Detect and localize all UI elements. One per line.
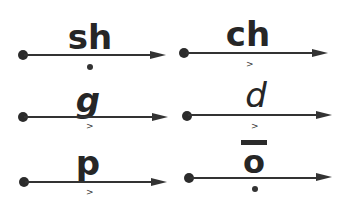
line [188, 114, 320, 116]
cell-ch: ch > [170, 0, 340, 66]
mark-dot-icon [252, 186, 258, 192]
letter-g: g [60, 83, 116, 117]
start-dot-icon [182, 111, 192, 121]
cell-o-macron: o [170, 140, 340, 206]
arrowhead-icon [151, 178, 167, 186]
cell-g: g > [0, 75, 170, 141]
arrowhead-icon [152, 113, 168, 121]
letter-sh: sh [58, 20, 122, 54]
caret-mark-icon: > [251, 122, 259, 131]
caret-mark-icon: > [246, 60, 254, 69]
cell-sh: sh [0, 0, 170, 66]
letter-o: o [226, 146, 282, 178]
line [25, 181, 155, 183]
arrowhead-icon [316, 173, 332, 181]
mark-dot-icon [87, 64, 93, 70]
caret-mark-icon: > [86, 122, 94, 131]
line [190, 177, 320, 179]
line [24, 54, 154, 56]
line [24, 116, 156, 118]
arrowhead-icon [316, 111, 332, 119]
cell-d: d > [170, 75, 340, 141]
cell-p: p > [0, 140, 170, 206]
letter-p: p [58, 146, 118, 180]
arrowhead-icon [150, 51, 166, 59]
letter-d: d [226, 78, 286, 112]
line [186, 52, 316, 54]
caret-mark-icon: > [86, 188, 94, 197]
arrowhead-icon [312, 49, 328, 57]
letter-ch: ch [216, 17, 280, 51]
